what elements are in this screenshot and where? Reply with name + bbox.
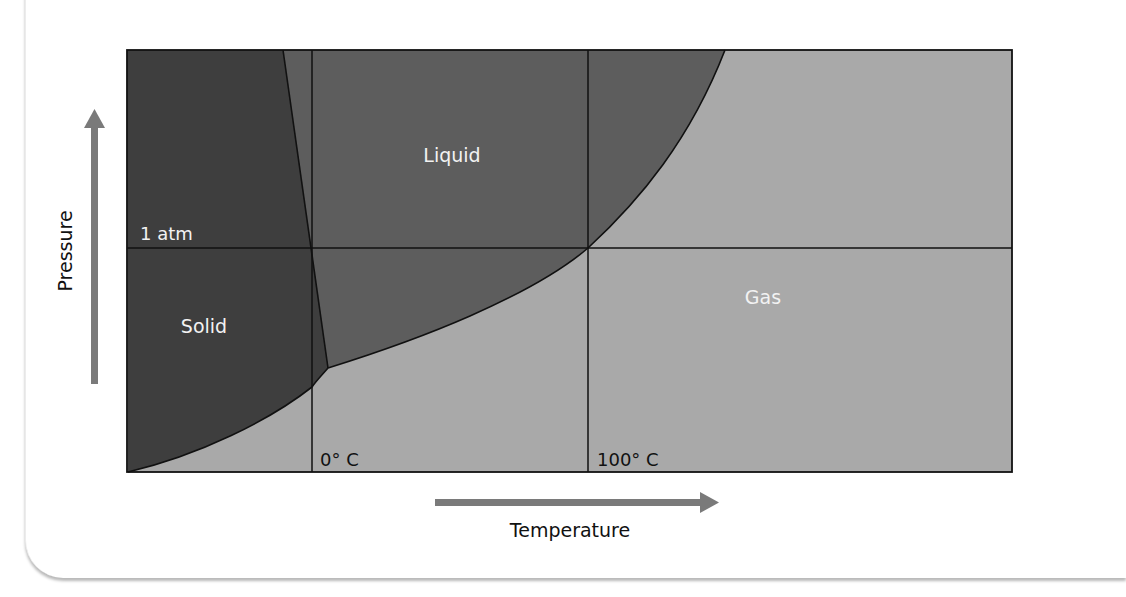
one-atm-label: 1 atm: [140, 223, 193, 244]
liquid-label: Liquid: [423, 144, 480, 166]
gas-label: Gas: [745, 286, 781, 308]
temperature-axis-label: Temperature: [509, 519, 630, 541]
pressure-axis-label: Pressure: [54, 210, 76, 291]
zero-celsius-label: 0° C: [320, 449, 359, 470]
temperature-arrow-icon: [435, 492, 719, 513]
pressure-arrow-icon: [84, 109, 105, 384]
solid-label: Solid: [181, 315, 227, 337]
hundred-celsius-label: 100° C: [597, 449, 659, 470]
